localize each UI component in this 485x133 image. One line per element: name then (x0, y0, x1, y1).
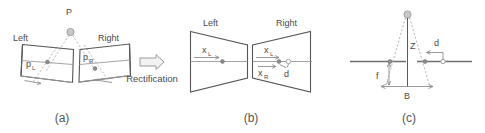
panel-b-disparity-leader-right (287, 64, 289, 68)
stereo-rectification-figure: P Left Right p L p R (a) Rectification (0, 0, 485, 133)
left-projection-label: p (26, 59, 31, 69)
left-epipolar-ray-extension (33, 47, 57, 82)
panel-b-right-feature-point (277, 60, 281, 64)
panel-b-xl-subscript: L (208, 51, 212, 57)
panel-b-right-label: Right (276, 18, 298, 28)
panel-b-group: Left Right x L x L x R d (b) (191, 18, 313, 125)
panel-b-right-xl-label: x (264, 45, 269, 55)
panel-c-right-reference-point (441, 59, 445, 63)
rectification-transition-group: Rectification (126, 55, 178, 85)
ray-to-left-projection (46, 35, 70, 72)
panel-b-disparity-label: d (284, 69, 289, 79)
panel-a-caption: (a) (55, 111, 70, 125)
panel-c-group: Z d f B (c) (350, 11, 472, 125)
right-projection-point (93, 67, 97, 71)
right-projection-subscript: R (89, 58, 94, 64)
panel-c-baseline-label: B (404, 91, 410, 101)
panel-b-right-xl-subscript: L (270, 51, 274, 57)
panel-b-disparity-leader-left (280, 65, 287, 68)
panel-b-left-feature-point (221, 60, 225, 64)
panel-b-right-reference-point (286, 59, 290, 63)
panel-b-xl-label: x (202, 45, 207, 55)
panel-a-left-label: Left (13, 33, 29, 43)
right-arrow-icon (140, 55, 164, 70)
panel-c-disparity-label: d (434, 38, 439, 48)
left-projection-subscript: L (32, 65, 36, 71)
panel-c-right-image-point (423, 60, 427, 64)
panel-b-caption: (b) (244, 111, 259, 125)
panel-c-left-ray (386, 18, 406, 88)
panel-c-caption: (c) (402, 111, 416, 125)
panel-a-group: P Left Right p L p R (a) (13, 7, 131, 125)
panel-b-xr-label: x (258, 68, 263, 78)
rectification-label: Rectification (126, 73, 178, 84)
panel-b-xr-subscript: R (264, 74, 269, 80)
panel-a-right-label: Right (98, 33, 120, 43)
figure-canvas: P Left Right p L p R (a) Rectification (0, 0, 485, 133)
left-projection-point (46, 60, 50, 64)
scene-point-marker (67, 28, 74, 35)
panel-c-scene-point (404, 11, 411, 18)
scene-point-label: P (66, 7, 72, 17)
panel-c-focal-label: f (376, 71, 379, 81)
panel-b-left-label: Left (203, 18, 219, 28)
panel-c-depth-label: Z (410, 41, 416, 51)
right-projection-label: p (83, 52, 88, 62)
